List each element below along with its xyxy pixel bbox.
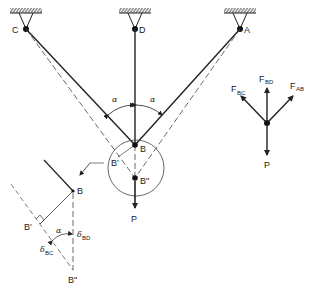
label-d: D — [139, 25, 146, 35]
detail-label-b-prime: B' — [24, 222, 32, 232]
label-p: P — [131, 214, 137, 224]
delta-bc-sub: BC — [45, 250, 54, 256]
label-fbd-p: P — [264, 160, 270, 170]
label-b-prime: B' — [111, 158, 119, 168]
leader-arrow — [80, 163, 90, 175]
detail-alpha: α — [56, 226, 62, 235]
truss-diagram: C D A α α B B" B' P F BC F BD F A — [0, 0, 309, 293]
label-fbd-sub: BD — [265, 79, 274, 85]
detail-label-b: B — [77, 186, 83, 196]
deformed-members — [26, 29, 240, 178]
joint-b-displaced — [132, 175, 138, 181]
alpha-left: α — [112, 95, 118, 104]
free-body-diagram — [241, 88, 293, 155]
label-b: B — [140, 144, 146, 154]
detail-circle — [108, 140, 164, 196]
label-a: A — [244, 25, 250, 35]
support-d — [119, 8, 151, 32]
label-fbc-sub: BC — [237, 90, 246, 96]
detail-label-b-double-prime: B" — [68, 275, 77, 285]
label-b-double-prime: B" — [140, 176, 149, 186]
alpha-right: α — [150, 95, 156, 104]
members — [26, 29, 240, 145]
joint-b — [132, 142, 138, 148]
label-fab-sub: AB — [296, 86, 304, 92]
label-c: C — [12, 25, 19, 35]
projection-line — [118, 145, 135, 157]
delta-bd-sub: BD — [82, 235, 91, 241]
support-a — [224, 8, 256, 32]
